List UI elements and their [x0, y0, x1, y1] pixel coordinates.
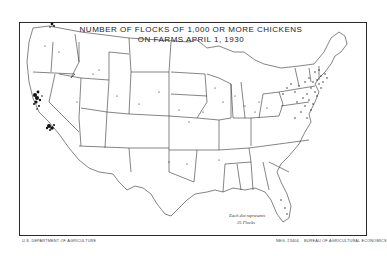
map-title-line2: ON FARMS APRIL 1, 1930 [0, 35, 382, 44]
footer-agency: U.S. DEPARTMENT OF AGRICULTURE [22, 239, 96, 243]
legend-line1: Each dot represents [229, 212, 265, 219]
footer-right: NEG. 23404 BUREAU OF AGRICULTURAL ECONOM… [276, 239, 387, 243]
map-title-line1: NUMBER OF FLOCKS OF 1,000 OR MORE CHICKE… [0, 25, 382, 34]
map-legend: Each dot represents 25 Flocks [229, 212, 265, 226]
us-dot-map [19, 22, 367, 236]
footer-neg-number: NEG. 23404 [276, 239, 299, 243]
us-outline [27, 26, 347, 222]
footer-left: U.S. DEPARTMENT OF AGRICULTURE [22, 239, 96, 243]
footer-bureau: BUREAU OF AGRICULTURAL ECONOMICS [304, 239, 387, 243]
legend-line2: 25 Flocks [229, 219, 265, 226]
